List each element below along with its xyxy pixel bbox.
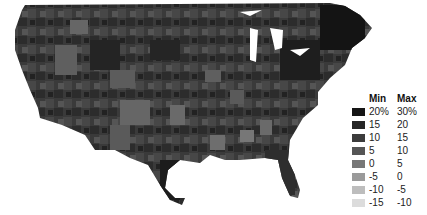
legend-min-value: 15 — [369, 119, 397, 130]
legend-max-value: 30% — [397, 106, 421, 117]
legend-swatch — [352, 108, 365, 116]
legend-header: Min Max — [369, 93, 427, 105]
legend-row: 5 10 — [352, 144, 427, 157]
legend-row: -15 -10 — [352, 196, 427, 209]
legend-swatch — [352, 186, 365, 194]
legend-row: 20% 30% — [352, 105, 427, 118]
legend-swatch — [352, 199, 365, 207]
legend-max-value: 15 — [397, 132, 421, 143]
legend-min-header: Min — [369, 93, 397, 105]
legend-max-value: 10 — [397, 145, 421, 156]
legend-min-value: -15 — [369, 197, 397, 208]
legend-max-value: 0 — [397, 171, 421, 182]
legend-max-value: 20 — [397, 119, 421, 130]
legend-row: 0 5 — [352, 157, 427, 170]
legend-row: -5 0 — [352, 170, 427, 183]
legend-swatch — [352, 173, 365, 181]
legend-swatch — [352, 134, 365, 142]
legend-max-value: 5 — [397, 158, 421, 169]
legend-swatch — [352, 160, 365, 168]
legend-swatch — [352, 121, 365, 129]
legend-min-value: 20% — [369, 106, 397, 117]
legend: Min Max 20% 30% 15 20 10 15 5 10 0 5 -5 … — [352, 93, 427, 209]
legend-min-value: -10 — [369, 184, 397, 195]
legend-swatch — [352, 147, 365, 155]
legend-min-value: 0 — [369, 158, 397, 169]
legend-max-value: -5 — [397, 184, 421, 195]
legend-min-value: 10 — [369, 132, 397, 143]
legend-min-value: -5 — [369, 171, 397, 182]
legend-min-value: 5 — [369, 145, 397, 156]
legend-row: -10 -5 — [352, 183, 427, 196]
legend-row: 15 20 — [352, 118, 427, 131]
legend-max-value: -10 — [397, 197, 421, 208]
legend-row: 10 15 — [352, 131, 427, 144]
legend-max-header: Max — [397, 93, 416, 105]
